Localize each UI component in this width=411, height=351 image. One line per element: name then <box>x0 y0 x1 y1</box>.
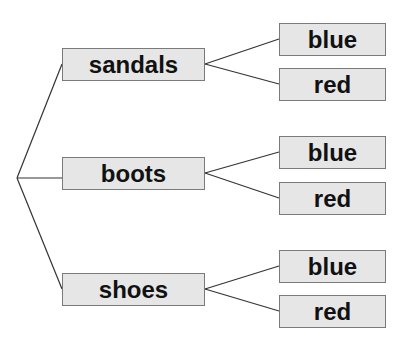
node-shoes: shoes <box>62 273 205 306</box>
node-label: blue <box>308 253 357 281</box>
tree-diagram: sandals boots shoes blue red blue red bl… <box>0 0 411 351</box>
node-sandals-red: red <box>279 68 386 101</box>
node-shoes-blue: blue <box>279 250 386 283</box>
node-label: blue <box>308 139 357 167</box>
edge-boots-red <box>205 173 279 198</box>
edge-shoes-red <box>205 289 279 311</box>
edge-boots-blue <box>205 152 279 173</box>
node-label: red <box>314 185 351 213</box>
node-label: blue <box>308 26 357 54</box>
node-label: sandals <box>89 51 178 79</box>
node-label: boots <box>101 160 166 188</box>
node-sandals-blue: blue <box>279 23 386 56</box>
node-boots-blue: blue <box>279 136 386 169</box>
node-shoes-red: red <box>279 295 386 328</box>
edge-root-sandals <box>17 64 62 178</box>
node-label: red <box>314 71 351 99</box>
edge-sandals-red <box>205 64 279 84</box>
edge-sandals-blue <box>205 39 279 64</box>
node-sandals: sandals <box>62 48 205 81</box>
node-boots-red: red <box>279 182 386 215</box>
node-label: red <box>314 298 351 326</box>
edge-shoes-blue <box>205 266 279 289</box>
node-boots: boots <box>62 157 205 190</box>
edge-root-shoes <box>17 178 62 289</box>
node-label: shoes <box>99 276 168 304</box>
